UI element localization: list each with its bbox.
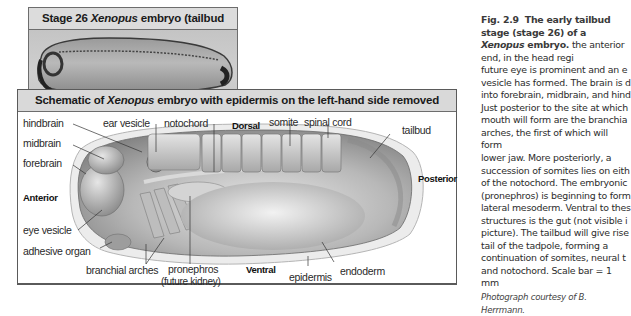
photo-panel-title: Stage 26 Xenopus embryo (tailbud stage) [29,8,237,30]
photo-panel: Stage 26 Xenopus embryo (tailbud stage) [28,7,238,100]
photo-credit: Photograph courtesy of B. Herrmann. [481,291,631,316]
schematic-panel-title: Schematic of Xenopus embryo with epiderm… [18,90,456,112]
label-endoderm: endoderm [340,265,385,277]
schematic-panel: Schematic of Xenopus embryo with epiderm… [17,89,457,285]
caption-line: lower jaw. More posteriorly, a [481,152,611,163]
label-somite: somite [269,116,298,128]
label-midbrain: midbrain [23,137,61,149]
caption-line: and notochord. Scale bar = 1 mm [481,265,612,289]
label-spinal-cord: spinal cord [304,116,351,128]
label-forebrain: forebrain [23,157,62,169]
schematic-title-species: Xenopus [107,94,154,106]
caption-line: arches, the first of which will form [481,127,608,151]
caption-line: of the notochord. The embryonic [481,177,627,188]
caption-line: vesicle has formed. The brain is d [481,77,631,88]
label-hindbrain: hindbrain [23,117,64,129]
caption-line: structures is the gut (not visible i [481,215,627,226]
caption-line: (pronephros) is beginning to form [481,190,631,201]
schematic-title-prefix: Schematic of [35,94,107,106]
label-pronephros-note: (future kidney) [161,276,220,287]
label-eye-vesicle: eye vesicle [23,224,72,236]
caption-line: picture). The tailbud will give rise [481,227,629,238]
caption-line: lateral mesoderm. Ventral to thes [481,202,631,213]
embryo-schematic-drawing [18,112,456,284]
caption-line: mouth will form are the branchia [481,114,627,125]
caption-heading-species: Xenopus [481,39,524,50]
caption-line: future eye is prominent and an e [481,64,627,75]
schematic-diagram: hindbrain midbrain forebrain Anterior ey… [18,112,456,284]
label-ventral: Ventral [246,264,276,275]
label-branchial-arches: branchial arches [86,264,158,276]
caption-body: the anterior end, in the head regi futur… [481,39,631,288]
label-epidermis: epidermis [289,271,332,283]
label-notochord: notochord [164,117,208,129]
label-posterior: Posterior [418,173,457,184]
figure-number: Fig. 2.9 [481,14,519,25]
label-pronephros: pronephros [168,263,218,275]
caption-line: succession of somites lies on eith [481,165,630,176]
photo-title-prefix: Stage 26 [42,12,91,24]
caption-line: Just posterior to the site at which [481,102,628,113]
caption-line: into forebrain, midbrain, and hind [481,89,631,100]
schematic-title-suffix: embryo with epidermis on the left-hand s… [154,94,439,106]
label-dorsal: Dorsal [232,120,260,131]
label-tailbud: tailbud [402,124,431,136]
label-anterior: Anterior [23,192,58,203]
caption-heading-suffix: embryo. [524,39,569,50]
label-ear-vesicle: ear vesicle [103,117,150,129]
figure-caption: Fig. 2.9 The early tailbud stage (stage … [481,14,631,316]
label-adhesive-organ: adhesive organ [23,245,91,257]
photo-title-species: Xenopus [91,12,138,24]
caption-line: tail of the tadpole, forming a [481,240,608,251]
caption-line: continuation of somites, neural t [481,252,626,263]
